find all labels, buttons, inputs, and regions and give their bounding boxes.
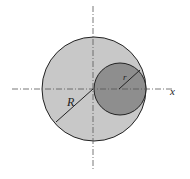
small-radius-label: r — [123, 72, 127, 82]
x-axis-label: x — [169, 85, 175, 97]
big-radius-label: R — [66, 95, 75, 109]
circle-diagram: R r x — [0, 0, 190, 179]
